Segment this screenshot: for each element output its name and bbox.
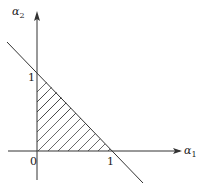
hatched-region	[0, 42, 197, 169]
y-axis-label: α2	[12, 6, 25, 20]
constraint-line	[7, 42, 143, 183]
origin-label: 0	[30, 156, 37, 167]
x-axis-label: α1	[184, 145, 197, 159]
y-intercept-label: 1	[28, 72, 35, 83]
x-intercept-label: 1	[107, 156, 114, 167]
